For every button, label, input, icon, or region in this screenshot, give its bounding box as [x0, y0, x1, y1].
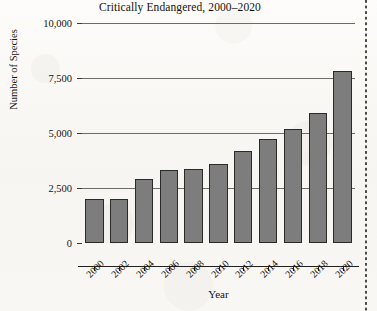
bar: [284, 129, 302, 243]
x-tick-label: 2000: [84, 258, 106, 280]
y-tick-label: 0: [10, 238, 72, 249]
x-tick-label: 2016: [283, 258, 305, 280]
bar: [85, 199, 103, 243]
bar: [259, 139, 277, 244]
x-tick-label: 2010: [209, 258, 231, 280]
bars: [82, 23, 355, 243]
x-axis-title: Year: [82, 288, 355, 300]
bar: [333, 71, 351, 243]
bar: [234, 151, 252, 243]
plot-area: 02,5005,0007,50010,000 20002002200420062…: [82, 23, 355, 243]
x-tick-label: 2006: [159, 258, 181, 280]
y-tick-label: 7,500: [10, 73, 72, 84]
x-tick-label: 2002: [109, 258, 131, 280]
bar: [184, 169, 202, 243]
x-tick-label: 2020: [333, 258, 355, 280]
x-tick-label: 2004: [134, 258, 156, 280]
bar: [160, 170, 178, 243]
y-tick-label: 10,000: [10, 18, 72, 29]
bar: [110, 199, 128, 243]
bar-chart-figure: Critically Endangered, 2000–2020 Number …: [0, 0, 377, 311]
x-tick-label: 2008: [184, 258, 206, 280]
x-tick-label: 2018: [308, 258, 330, 280]
x-tick-label: 2012: [233, 258, 255, 280]
y-tick-mark: [77, 243, 82, 244]
bar: [209, 164, 227, 243]
bar: [135, 179, 153, 243]
y-tick-label: 5,000: [10, 128, 72, 139]
y-tick-label: 2,500: [10, 183, 72, 194]
chart-title: Critically Endangered, 2000–2020: [0, 1, 360, 13]
bar: [309, 113, 327, 243]
x-tick-label: 2014: [258, 258, 280, 280]
page-edge-dotted-rule: [365, 0, 367, 311]
